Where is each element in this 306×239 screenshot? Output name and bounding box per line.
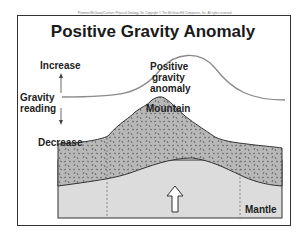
label-gravity: Gravity: [20, 92, 54, 103]
label-positive: Positive: [150, 61, 188, 72]
label-gravity-2: gravity: [152, 72, 185, 83]
label-decrease: Decrease: [38, 137, 82, 148]
label-increase: Increase: [40, 60, 81, 71]
label-mantle: Mantle: [245, 204, 277, 215]
label-mountain: Mountain: [146, 103, 190, 114]
gravity-axis-arrows: [59, 73, 63, 125]
label-reading: reading: [20, 103, 56, 114]
label-anomaly: anomaly: [150, 83, 191, 94]
